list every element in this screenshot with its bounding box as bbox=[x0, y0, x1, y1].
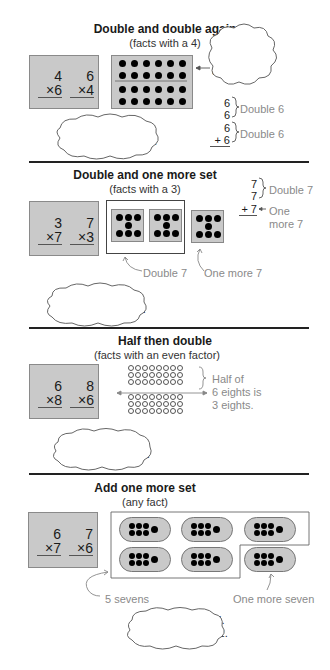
cloud-outline bbox=[53, 429, 151, 471]
decorations bbox=[0, 0, 330, 670]
cloud-outline bbox=[47, 283, 146, 326]
cloud-outline bbox=[127, 608, 224, 650]
cloud-outline bbox=[57, 114, 158, 159]
cloud-outline bbox=[209, 24, 277, 84]
